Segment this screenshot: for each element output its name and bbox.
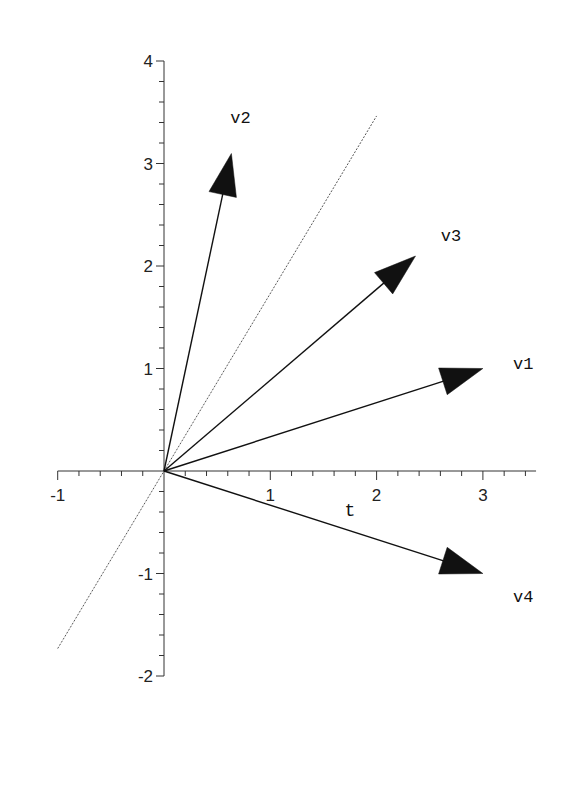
vector-shaft bbox=[164, 380, 447, 471]
arrowhead-icon bbox=[375, 256, 416, 294]
x-tick-label: 1 bbox=[266, 486, 275, 505]
y-tick-label: -1 bbox=[138, 565, 153, 584]
x-axis-label: t bbox=[345, 501, 356, 521]
y-tick-label: 3 bbox=[144, 155, 153, 174]
vector-group bbox=[164, 154, 483, 575]
x-tick-label: 2 bbox=[372, 486, 381, 505]
arrowhead-icon bbox=[439, 547, 483, 574]
vector-shaft bbox=[164, 471, 447, 562]
reference-line-group bbox=[58, 116, 377, 649]
x-tick-label: 3 bbox=[478, 486, 487, 505]
vector-plot: -1123-2-11234 v1v2v3v4t bbox=[0, 0, 571, 793]
vector-label-v1: v1 bbox=[513, 355, 533, 374]
vector-v3 bbox=[164, 256, 416, 471]
arrowhead-icon bbox=[439, 368, 483, 395]
vector-shaft bbox=[164, 281, 387, 471]
y-tick-label: 4 bbox=[144, 52, 153, 71]
vector-label-v3: v3 bbox=[441, 227, 461, 246]
vector-v4 bbox=[164, 471, 483, 574]
vector-v1 bbox=[164, 368, 483, 471]
y-tick-label: 1 bbox=[144, 360, 153, 379]
label-group: v1v2v3v4t bbox=[230, 109, 533, 607]
vector-label-v2: v2 bbox=[230, 109, 250, 128]
arrowhead-icon bbox=[209, 154, 236, 198]
vector-shaft bbox=[164, 191, 224, 471]
y-tick-label: 2 bbox=[144, 257, 153, 276]
reference-line bbox=[58, 116, 377, 649]
vector-label-v4: v4 bbox=[513, 588, 533, 607]
x-tick-label: -1 bbox=[50, 486, 65, 505]
y-tick-label: -2 bbox=[138, 667, 153, 686]
vector-v2 bbox=[164, 154, 236, 472]
